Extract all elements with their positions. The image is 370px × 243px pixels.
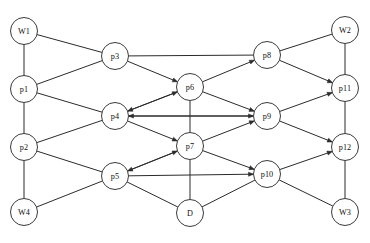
node-p1[interactable]: p1 xyxy=(11,76,38,103)
node-D[interactable]: D xyxy=(177,200,204,227)
node-p11[interactable]: p11 xyxy=(332,75,359,102)
node-W4[interactable]: W4 xyxy=(11,199,38,226)
node-label-p9: p9 xyxy=(263,112,271,121)
edge-W4-p5 xyxy=(37,181,103,207)
arrowhead-icon xyxy=(172,78,177,82)
edge-p3-p8 xyxy=(129,55,254,56)
node-label-D: D xyxy=(187,209,193,218)
node-label-W2: W2 xyxy=(339,26,351,35)
node-label-p1: p1 xyxy=(20,85,28,94)
edge-p7-p10 xyxy=(203,151,255,170)
node-label-p10: p10 xyxy=(261,170,274,179)
node-label-p12: p12 xyxy=(339,143,352,152)
node-label-p2: p2 xyxy=(20,143,28,152)
node-label-W1: W1 xyxy=(18,27,30,36)
arrowhead-icon xyxy=(327,79,332,83)
edge-layer xyxy=(24,34,345,207)
edge-p3-p6 xyxy=(127,61,177,82)
edge-p1-p4 xyxy=(37,93,102,112)
arrowhead-icon xyxy=(249,121,254,125)
node-label-p4: p4 xyxy=(111,112,119,121)
edge-p9-p12 xyxy=(280,121,333,142)
arrowhead-icon xyxy=(172,137,177,141)
arrowhead-icon xyxy=(248,172,253,176)
arrowhead-icon xyxy=(327,151,332,155)
node-label-W4: W4 xyxy=(18,208,30,217)
edge-p5-p10 xyxy=(129,172,254,176)
node-W3[interactable]: W3 xyxy=(332,199,359,226)
arrowhead-icon xyxy=(327,138,332,142)
arrowhead-icon xyxy=(129,114,134,118)
node-label-W3: W3 xyxy=(339,208,351,217)
arrowhead-icon xyxy=(128,167,133,171)
edge-p9-p4 xyxy=(129,114,254,118)
node-layer: W1p1p2W4p3p4p5p6p7Dp8p9p10W2p11p12W3 xyxy=(11,17,359,227)
node-p3[interactable]: p3 xyxy=(102,43,129,70)
node-p5[interactable]: p5 xyxy=(102,163,129,190)
edge-p6-p4 xyxy=(128,92,178,111)
edge-p9-p11 xyxy=(280,92,333,111)
edge-p7-p5 xyxy=(128,151,178,171)
edge-p6-p8 xyxy=(202,60,254,82)
node-p12[interactable]: p12 xyxy=(332,134,359,161)
arrowhead-icon xyxy=(128,107,133,111)
edge-p2-p4 xyxy=(37,120,102,142)
arrowhead-icon xyxy=(249,60,254,64)
edge-p10-W3 xyxy=(279,180,333,206)
arrowhead-icon xyxy=(249,108,254,112)
node-p6[interactable]: p6 xyxy=(177,74,204,101)
edge-p5-D xyxy=(127,182,178,207)
node-W1[interactable]: W1 xyxy=(11,18,38,45)
edge-p8-W2 xyxy=(280,34,332,51)
node-p10[interactable]: p10 xyxy=(254,161,281,188)
node-p7[interactable]: p7 xyxy=(177,133,204,160)
node-label-p6: p6 xyxy=(186,83,194,92)
edge-p10-p12 xyxy=(280,151,332,170)
edge-p7-p9 xyxy=(203,121,255,141)
edge-p1-p3 xyxy=(37,61,103,85)
edge-p4-p7 xyxy=(128,121,178,141)
node-label-p5: p5 xyxy=(111,172,119,181)
network-diagram: W1p1p2W4p3p4p5p6p7Dp8p9p10W2p11p12W3 xyxy=(0,0,370,243)
node-label-p3: p3 xyxy=(111,52,119,61)
node-label-p11: p11 xyxy=(339,84,351,93)
node-p4[interactable]: p4 xyxy=(102,103,129,130)
edge-p2-p5 xyxy=(37,151,102,172)
arrowhead-icon xyxy=(327,92,332,96)
edge-p8-p11 xyxy=(279,60,332,82)
graph-canvas: W1p1p2W4p3p4p5p6p7Dp8p9p10W2p11p12W3 xyxy=(0,0,370,243)
node-label-p8: p8 xyxy=(263,51,271,60)
node-label-p7: p7 xyxy=(186,142,194,151)
node-p8[interactable]: p8 xyxy=(254,42,281,69)
arrowhead-icon xyxy=(249,166,254,170)
edge-D-p10 xyxy=(202,180,255,207)
edge-W1-p3 xyxy=(37,35,102,53)
edge-p6-p9 xyxy=(203,92,255,112)
node-p9[interactable]: p9 xyxy=(254,103,281,130)
node-p2[interactable]: p2 xyxy=(11,134,38,161)
node-W2[interactable]: W2 xyxy=(332,17,359,44)
